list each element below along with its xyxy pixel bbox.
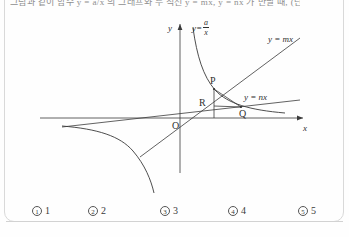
answer-choice-3[interactable]: 3 3 xyxy=(160,205,178,216)
choice-text-4: 4 xyxy=(241,205,246,216)
hyperbola-eq-numerator: a xyxy=(203,19,209,28)
point-label-R: R xyxy=(199,98,206,108)
choice-marker-1: 1 xyxy=(32,206,42,216)
line-y-equals-nx xyxy=(62,100,300,127)
origin-label: O xyxy=(172,121,179,131)
point-label-P: P xyxy=(210,76,216,86)
choice-marker-5: 5 xyxy=(298,206,308,216)
choice-marker-3: 3 xyxy=(160,206,170,216)
hyperbola-eq-denominator: x xyxy=(203,28,209,37)
line-n-equation-label: y = nx xyxy=(244,92,267,102)
choice-text-3: 3 xyxy=(173,205,178,216)
answer-choice-5[interactable]: 5 5 xyxy=(298,205,316,216)
y-axis-label: y xyxy=(168,24,172,33)
hyperbola-branch-q3 xyxy=(62,126,154,193)
segment-rq xyxy=(214,106,241,107)
x-axis-label: x xyxy=(303,124,307,133)
answer-choice-4[interactable]: 4 4 xyxy=(228,205,246,216)
page-bottom-rule xyxy=(6,221,343,222)
figure-svg xyxy=(0,8,349,193)
hyperbola-eq-sign: = xyxy=(196,23,202,33)
scanned-page: 그림과 같이 함수 y = a/x 의 그래프와 두 직선 y = mx, y … xyxy=(0,0,349,237)
choice-text-1: 1 xyxy=(45,205,50,216)
line-y-equals-mx xyxy=(140,38,300,157)
answer-choice-1[interactable]: 1 1 xyxy=(32,205,50,216)
answer-choice-2[interactable]: 2 2 xyxy=(88,205,106,216)
choice-text-2: 2 xyxy=(101,205,106,216)
point-P-dot xyxy=(213,88,215,90)
math-figure: y x O P R Q y=ax y = mx y = nx xyxy=(0,8,349,193)
choice-marker-4: 4 xyxy=(228,206,238,216)
answer-choices: 1 1 2 2 3 3 4 4 5 5 xyxy=(0,198,349,222)
y-axis xyxy=(178,24,183,173)
hyperbola-eq-fraction: ax xyxy=(203,19,209,37)
choice-text-5: 5 xyxy=(311,205,316,216)
choice-marker-2: 2 xyxy=(88,206,98,216)
question-stem-clipped: 그림과 같이 함수 y = a/x 의 그래프와 두 직선 y = mx, y … xyxy=(10,0,300,7)
point-label-Q: Q xyxy=(239,109,246,119)
hyperbola-equation-label: y=ax xyxy=(192,20,209,38)
line-m-equation-label: y = mx xyxy=(268,34,293,44)
